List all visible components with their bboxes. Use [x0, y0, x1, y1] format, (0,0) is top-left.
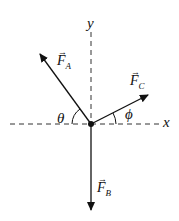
vector-arrow-icon: →	[58, 48, 67, 57]
label-f-a: →FA	[57, 54, 71, 68]
phi-arc	[113, 113, 116, 124]
x-axis-label: x	[163, 115, 170, 130]
label-f-c: →FC	[130, 74, 145, 88]
y-axis-label: y	[87, 16, 94, 31]
vector-f-c	[91, 95, 148, 124]
theta-label: θ	[57, 111, 64, 126]
phi-label: ϕ	[125, 107, 133, 122]
origin-point	[88, 121, 94, 127]
label-f-b: →FB	[97, 181, 111, 195]
theta-arc	[72, 109, 80, 124]
force-diagram	[0, 0, 179, 221]
vector-arrow-icon: →	[98, 175, 107, 184]
vector-arrow-icon: →	[131, 68, 140, 77]
